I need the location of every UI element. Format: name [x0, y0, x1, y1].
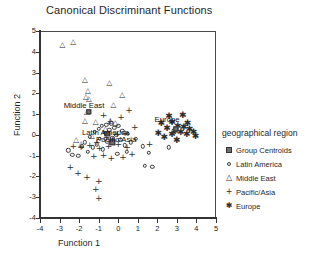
legend-item[interactable]: Latin America [222, 157, 318, 171]
legend-items: Group CentroidsLatin America△Middle East… [222, 143, 318, 213]
x-tick-label: 0 [110, 225, 126, 233]
data-point: △ [82, 76, 88, 84]
data-point: ✱ [192, 131, 200, 140]
x-tick-label: 2 [149, 225, 165, 233]
data-point: + [131, 122, 139, 131]
data-point [70, 152, 74, 156]
legend-marker-icon [222, 147, 236, 152]
x-tick [177, 219, 178, 223]
data-point: + [83, 173, 91, 182]
data-point: + [107, 117, 115, 126]
legend-item[interactable]: ✱Europe [222, 199, 318, 213]
x-tick-label: -3 [52, 225, 68, 233]
data-point: + [100, 150, 108, 159]
data-point [167, 145, 171, 149]
legend-marker-icon: + [222, 188, 236, 196]
data-point: ✱ [168, 129, 176, 138]
legend-item[interactable]: △Middle East [222, 171, 318, 185]
x-tick-label: 5 [208, 225, 224, 233]
data-point [76, 153, 80, 157]
chart-root: Canonical Discriminant Functions -4-3-2-… [0, 0, 320, 257]
legend-label: Pacific/Asia [236, 188, 275, 197]
data-point: + [100, 111, 108, 120]
x-tick [118, 219, 119, 223]
x-tick-label: 4 [188, 225, 204, 233]
legend-label: Latin America [236, 160, 282, 169]
data-point: + [125, 105, 133, 114]
cluster-label: Europe [155, 115, 180, 124]
legend-title: geographical region [222, 128, 318, 138]
data-point [140, 144, 144, 148]
data-point: ✱ [155, 128, 163, 137]
legend-item[interactable]: Group Centroids [222, 143, 318, 157]
x-tick-label: 3 [169, 225, 185, 233]
legend-label: Middle East [236, 174, 276, 183]
data-point [146, 150, 150, 154]
data-point [142, 164, 146, 168]
data-point: + [67, 163, 75, 172]
legend-marker-icon: △ [222, 174, 236, 182]
y-tick-label: 5 [14, 27, 36, 35]
x-tick [60, 219, 61, 223]
x-tick-label: -2 [71, 225, 87, 233]
data-point: △ [93, 119, 99, 127]
legend-marker-icon: ✱ [222, 202, 236, 210]
x-axis-title: Function 1 [58, 238, 100, 248]
legend-marker-icon [222, 162, 236, 167]
data-point [150, 165, 154, 169]
data-point: △ [119, 92, 125, 100]
data-point: + [117, 113, 125, 122]
x-tick-label: -4 [32, 225, 48, 233]
data-point: + [86, 141, 94, 150]
data-point: + [69, 142, 77, 151]
x-tick [157, 219, 158, 223]
x-tick-label: -1 [91, 225, 107, 233]
data-point: ✱ [184, 119, 192, 128]
data-point: + [77, 143, 85, 152]
y-tick-label: -4 [14, 214, 36, 222]
data-point: + [119, 152, 127, 161]
legend-label: Europe [236, 202, 261, 211]
scatter-plot-area: △△△△△△△△△△△△△△△△△△++++++++++++++++++++++… [40, 31, 216, 218]
x-tick [138, 219, 139, 223]
x-tick [40, 219, 41, 223]
x-tick [196, 219, 197, 223]
x-tick [216, 219, 217, 223]
x-tick-label: 1 [130, 225, 146, 233]
y-tick-label: -2 [14, 172, 36, 180]
legend: geographical region Group CentroidsLatin… [222, 128, 318, 213]
y-axis-title: Function 2 [12, 70, 22, 160]
data-point: △ [110, 101, 116, 109]
data-point: △ [82, 118, 88, 126]
data-point: △ [60, 41, 66, 49]
data-point: + [95, 194, 103, 203]
x-tick [79, 219, 80, 223]
data-point: + [128, 149, 136, 158]
x-tick [99, 219, 100, 223]
data-point: + [90, 151, 98, 160]
data-point: + [146, 140, 154, 149]
legend-label: Group Centroids [236, 146, 292, 155]
data-point: + [74, 169, 82, 178]
data-point: + [108, 153, 116, 162]
data-point: △ [107, 79, 113, 87]
data-point: △ [84, 108, 90, 116]
y-tick-label: 4 [14, 48, 36, 56]
cluster-label: Middle East [64, 100, 105, 109]
data-point: △ [70, 39, 76, 47]
chart-title: Canonical Discriminant Functions [46, 4, 212, 16]
legend-item[interactable]: +Pacific/Asia [222, 185, 318, 199]
y-tick-label: -3 [14, 193, 36, 201]
cluster-label: Pacific/Asia [96, 135, 136, 144]
